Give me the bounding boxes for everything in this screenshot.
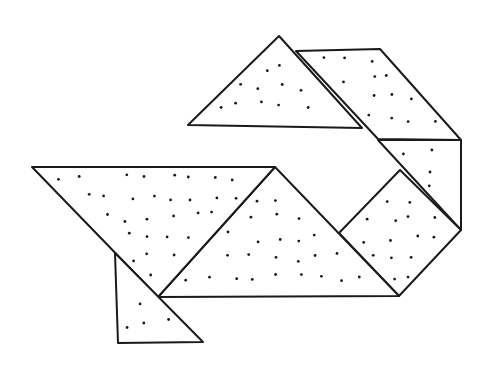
tangram-diagram [0, 0, 500, 366]
